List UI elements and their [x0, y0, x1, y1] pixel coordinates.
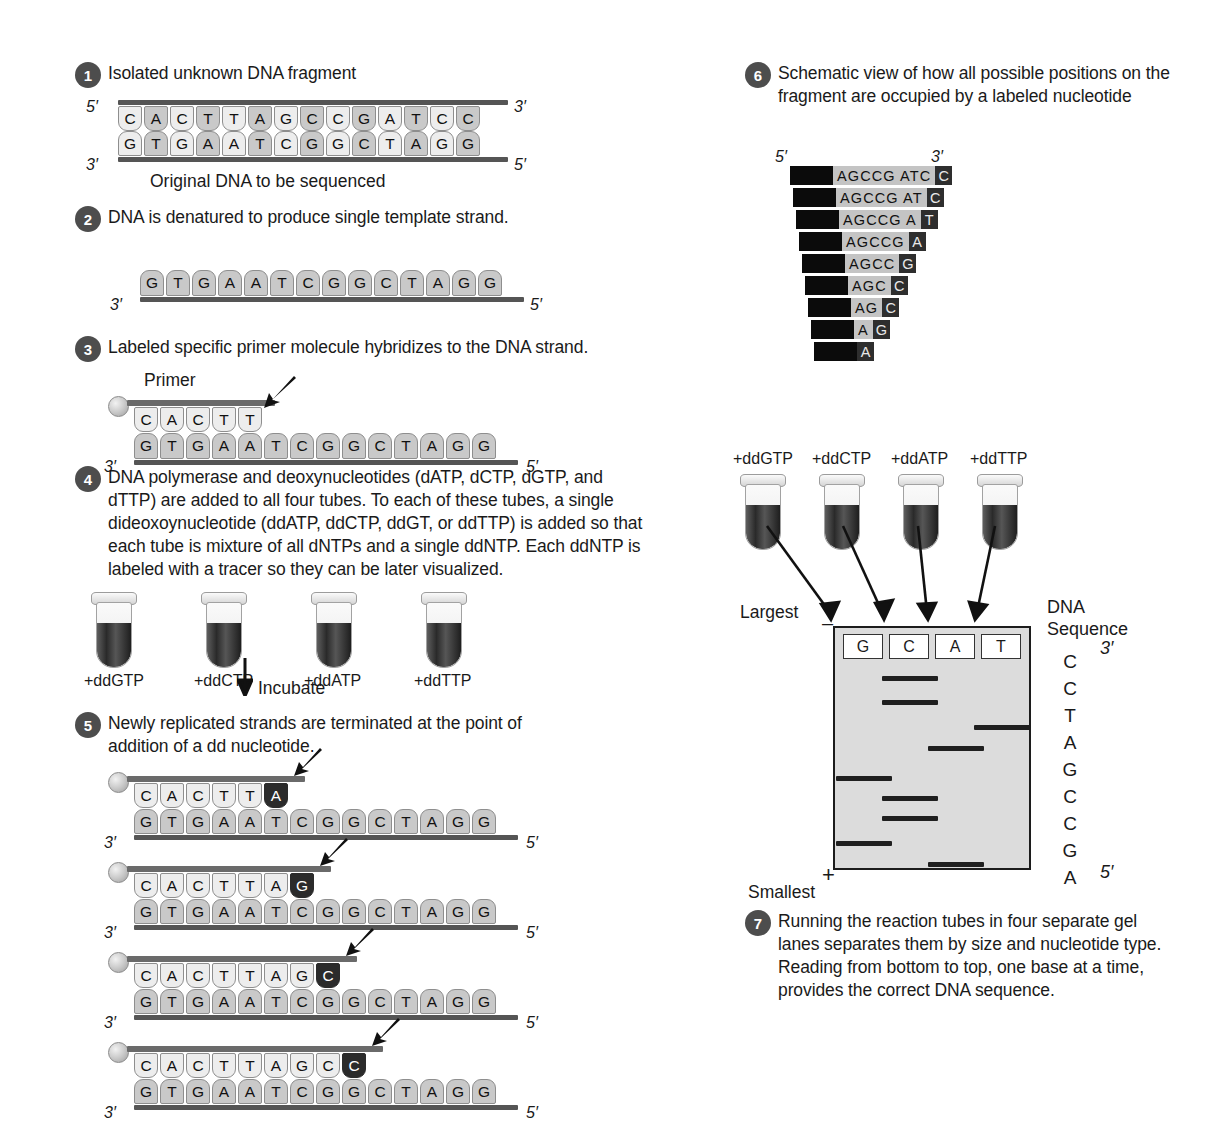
base-top-13: C: [456, 106, 480, 131]
t5-base-0-6: C: [290, 809, 314, 834]
t5-base-1-9: C: [368, 899, 392, 924]
sequence-base-1: C: [1058, 675, 1082, 702]
primer-base-4: T: [238, 407, 262, 432]
step-5-template-bases-3: GTGAATCGGCTAGG: [134, 1079, 518, 1104]
t5-base-3-9: C: [368, 1079, 392, 1104]
ladder-primer-block-0: [790, 166, 833, 185]
t5-base-3-1: T: [160, 1079, 184, 1104]
new-base-2-2: C: [186, 963, 210, 988]
template-base-8: G: [348, 270, 372, 296]
ladder-terminator-8: A: [857, 342, 874, 361]
ladder-terminator-0: C: [935, 166, 952, 185]
t5-base-2-2: G: [186, 989, 210, 1014]
ladder-sequence-7: A: [854, 320, 873, 339]
gel-band-C-1: [882, 676, 938, 681]
step4-tube-0: [96, 592, 130, 666]
new-base-3-3: T: [212, 1053, 236, 1078]
ladder-row-0: AGCCG ATCC: [790, 166, 952, 185]
gel-lane-G: G: [843, 634, 883, 659]
sequence-readout: CCTAGCCGA: [1058, 648, 1082, 891]
sequence-base-3: A: [1058, 729, 1082, 756]
ladder-row-8: A: [814, 342, 976, 361]
strand-bar-2: [127, 956, 357, 962]
step3-template-base-7: G: [316, 433, 340, 459]
tube-contents: [427, 623, 461, 667]
template-bases: GTGAATCGGCTAGG: [140, 270, 524, 296]
step-7-badge: 7: [745, 910, 771, 936]
tube-body: [316, 602, 352, 668]
base-bottom-8: G: [326, 131, 350, 156]
step-5-template-rail-1: [134, 925, 518, 930]
sequence-base-8: A: [1058, 864, 1082, 891]
ladder-primer-block-5: [805, 276, 848, 295]
primer-base-3: T: [212, 407, 236, 432]
ladder-primer-block-4: [802, 254, 845, 273]
step-5-template-bases-1: GTGAATCGGCTAGG: [134, 899, 518, 924]
gel-band-C-7: [882, 816, 938, 821]
terminator-base-1: G: [290, 873, 314, 898]
ladder-primer-block-1: [793, 188, 836, 207]
negative-pole-label: –: [822, 612, 833, 635]
t5-base-2-1: T: [160, 989, 184, 1014]
new-base-2-4: T: [238, 963, 262, 988]
t5-base-2-0: G: [134, 989, 158, 1014]
sequence-base-4: G: [1058, 756, 1082, 783]
step-5-badge: 5: [75, 712, 101, 738]
t5-base-0-12: G: [446, 809, 470, 834]
primer-bar: [127, 400, 275, 406]
t5-base-1-10: T: [394, 899, 418, 924]
primer-base-0: C: [134, 407, 158, 432]
gel-tube-label-2: +ddATP: [891, 450, 948, 468]
t5-base-1-4: A: [238, 899, 262, 924]
step-6-text: Schematic view of how all possible posit…: [778, 62, 1175, 108]
gel-box: GCAT: [833, 626, 1031, 870]
t5-base-1-2: G: [186, 899, 210, 924]
new-strand-bases-1: CACTTAG: [134, 873, 316, 898]
t5-base-3-7: G: [316, 1079, 340, 1104]
t5-base-2-12: G: [446, 989, 470, 1014]
t5-base-0-13: G: [472, 809, 496, 834]
duplex-bottom-rail: [118, 157, 508, 162]
step-2-badge: 2: [75, 206, 101, 232]
base-bottom-5: T: [248, 131, 272, 156]
template-base-10: T: [400, 270, 424, 296]
step4-tube-label-3: +ddTTP: [414, 672, 471, 690]
duplex-top-rail: [118, 100, 508, 105]
base-bottom-12: G: [430, 131, 454, 156]
strand-bar-0: [127, 776, 305, 782]
step-5-template-bases-0: GTGAATCGGCTAGG: [134, 809, 518, 834]
new-base-3-6: G: [290, 1053, 314, 1078]
t5-base-2-5: T: [264, 989, 288, 1014]
ladder-row-7: AG: [811, 320, 973, 339]
template-rail: [140, 297, 524, 302]
t5-base-3-3: A: [212, 1079, 236, 1104]
terminator-base-3: C: [342, 1053, 366, 1078]
ladder-sequence-5: AGC: [848, 276, 891, 295]
tube-body: [96, 602, 132, 668]
ladder-sequence-1: AGCCG AT: [836, 188, 927, 207]
step3-template-base-12: G: [446, 433, 470, 459]
ladder-sequence-3: AGCCG: [842, 232, 909, 251]
largest-label: Largest: [740, 602, 798, 623]
t5-base-3-10: T: [394, 1079, 418, 1104]
new-base-0-1: A: [160, 783, 184, 808]
new-base-0-4: T: [238, 783, 262, 808]
step3-template-base-9: C: [368, 433, 392, 459]
primer-pointer-arrow: [256, 376, 298, 410]
step3-template-base-8: G: [342, 433, 366, 459]
new-base-3-4: T: [238, 1053, 262, 1078]
template-base-13: G: [478, 270, 502, 296]
gel-tube-label-0: +ddGTP: [733, 450, 793, 468]
gel-band-G-5: [836, 776, 892, 781]
step3-template-base-1: T: [160, 433, 184, 459]
step4-tube-2: [316, 592, 350, 666]
ladder-terminator-2: T: [921, 210, 938, 229]
t5-base-2-8: G: [342, 989, 366, 1014]
t5-base-1-8: G: [342, 899, 366, 924]
primer-label-ball: [108, 396, 129, 417]
sequence-base-0: C: [1058, 648, 1082, 675]
t5-base-0-3: A: [212, 809, 236, 834]
primer-bases: CACTT: [134, 407, 264, 432]
base-top-1: A: [144, 106, 168, 131]
new-strand-bases-0: CACTTA: [134, 783, 290, 808]
